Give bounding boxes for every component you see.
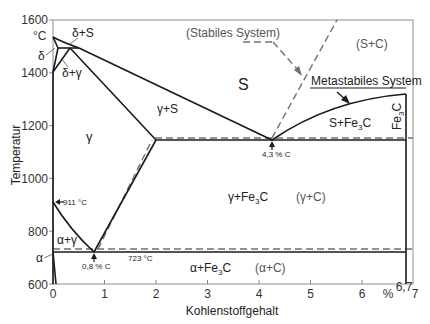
x-tick-3: 3 [204, 287, 211, 301]
y-tick-1400: 1400 [21, 66, 48, 80]
region-delta: δ [38, 49, 45, 63]
metastable-system-label: Metastabiles System [311, 74, 422, 88]
stable-system-lines [53, 20, 413, 249]
y-unit: °C [33, 29, 47, 43]
x-tick-0: 0 [50, 287, 57, 301]
region-gamma-c: (γ+C) [296, 190, 326, 204]
region-delta-gamma: δ+γ [62, 66, 82, 80]
x-tick-4: 4 [256, 287, 263, 301]
label-4-3-c: 4,3 % C [262, 150, 291, 159]
region-gamma: γ [86, 129, 93, 144]
region-s: S [238, 76, 249, 93]
stable-system-label: (Stabiles System) [186, 26, 280, 40]
x-tick-6-7: 6,7 [396, 280, 413, 294]
region-s-c: (S+C) [356, 37, 388, 51]
region-gamma-s: γ+S [157, 102, 178, 116]
x-tick-5: 5 [307, 287, 314, 301]
y-tick-1000: 1000 [21, 172, 48, 186]
x-tick-labels: 0 1 2 3 4 5 6 7 % 6,7 [50, 280, 419, 301]
y-tick-800: 800 [28, 225, 48, 239]
region-fe3c: Fe3C [390, 103, 406, 130]
x-tick-7: 7 [412, 287, 419, 301]
x-tick-6: 6 [359, 287, 366, 301]
plot-frame [53, 20, 413, 284]
x-tick-1: 1 [101, 287, 108, 301]
y-tick-1600: 1600 [21, 13, 48, 27]
x-axis-title: Kohlenstoffgehalt [186, 304, 279, 318]
label-0-8-c: 0,8 % C [82, 262, 111, 271]
region-s-fe3c: S+Fe3C [329, 116, 371, 132]
region-labels: δ+S δ δ+γ S γ+S γ (S+C) S+Fe3C Fe3C γ+Fe… [36, 26, 406, 277]
region-delta-s: δ+S [72, 26, 94, 40]
region-alpha-c: (α+C) [255, 261, 286, 275]
iron-carbon-diagram: 1600 1400 1200 1000 800 600 °C Temperatu… [0, 0, 430, 324]
region-gamma-fe3c: γ+Fe3C [228, 190, 268, 206]
y-tick-1200: 1200 [21, 119, 48, 133]
region-alpha: α [36, 251, 43, 265]
x-tick-2: 2 [153, 287, 160, 301]
label-723: 723 °C [128, 254, 153, 263]
label-911: 911 °C [63, 198, 87, 207]
y-tick-600: 600 [28, 278, 48, 292]
region-alpha-fe3c: α+Fe3C [190, 261, 231, 277]
region-alpha-gamma: α+γ [57, 233, 77, 247]
x-unit-percent: % [383, 287, 394, 301]
y-axis-title: Temperatur [9, 125, 23, 186]
